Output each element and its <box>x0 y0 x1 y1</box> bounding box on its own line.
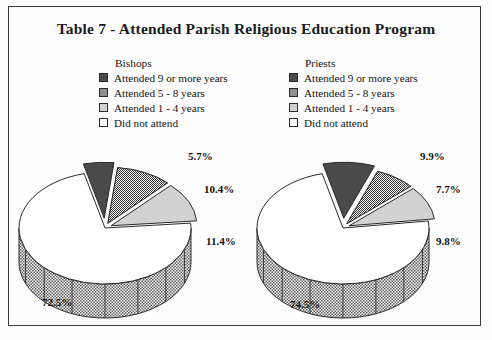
legend-item-did-not-attend[interactable]: Did not attend <box>99 115 228 130</box>
pie-label-attended-1-4: 9.8% <box>436 235 461 247</box>
pie-label-did-not-attend: 72.5% <box>42 296 72 308</box>
legend-swatch-light-gray-icon <box>289 103 298 112</box>
pie-label-did-not-attend: 74.5% <box>290 298 320 310</box>
legend-swatch-white-icon <box>99 118 108 127</box>
pie-label-attended-9-plus: 5.7% <box>188 150 213 162</box>
legend-priests: Priests Attended 9 or more years Attende… <box>289 57 418 130</box>
legend-label: Attended 5 - 8 years <box>304 87 395 99</box>
legend-heading-priests: Priests <box>305 57 418 70</box>
pie-label-attended-9-plus: 9.9% <box>420 150 445 162</box>
legend-item-attended-5-8[interactable]: Attended 5 - 8 years <box>99 85 228 100</box>
pie-label-attended-1-4: 11.4% <box>206 235 236 247</box>
legend-label: Attended 5 - 8 years <box>114 87 205 99</box>
legend-item-attended-9-plus[interactable]: Attended 9 or more years <box>99 70 228 85</box>
pie-label-attended-5-8: 7.7% <box>436 183 461 195</box>
legend-swatch-light-gray-icon <box>99 103 108 112</box>
legend-label: Did not attend <box>304 117 368 129</box>
legend-item-attended-1-4[interactable]: Attended 1 - 4 years <box>289 100 418 115</box>
legend-item-attended-9-plus[interactable]: Attended 9 or more years <box>289 70 418 85</box>
chart-page: Table 7 - Attended Parish Religious Educ… <box>0 0 492 340</box>
legend-label: Attended 9 or more years <box>304 72 418 84</box>
legend-label: Attended 9 or more years <box>114 72 228 84</box>
legend-item-attended-1-4[interactable]: Attended 1 - 4 years <box>99 100 228 115</box>
legend-swatch-medium-gray-icon <box>289 88 298 97</box>
legend-label: Did not attend <box>114 117 178 129</box>
legend-swatch-medium-gray-icon <box>99 88 108 97</box>
legend-label: Attended 1 - 4 years <box>114 102 205 114</box>
pie-chart-priests: 9.9% 7.7% 9.8% 74.5% <box>240 150 486 325</box>
pie-label-attended-5-8: 10.4% <box>204 183 234 195</box>
legend-heading-bishops: Bishops <box>115 57 228 70</box>
legend-swatch-white-icon <box>289 118 298 127</box>
legend-item-did-not-attend[interactable]: Did not attend <box>289 115 418 130</box>
pie-chart-bishops: 5.7% 10.4% 11.4% 72.5% <box>2 150 248 325</box>
page-title: Table 7 - Attended Parish Religious Educ… <box>0 20 492 38</box>
legend-swatch-dark-icon <box>289 73 298 82</box>
legend-item-attended-5-8[interactable]: Attended 5 - 8 years <box>289 85 418 100</box>
legend-label: Attended 1 - 4 years <box>304 102 395 114</box>
legend-swatch-dark-icon <box>99 73 108 82</box>
legend-bishops: Bishops Attended 9 or more years Attende… <box>99 57 228 130</box>
